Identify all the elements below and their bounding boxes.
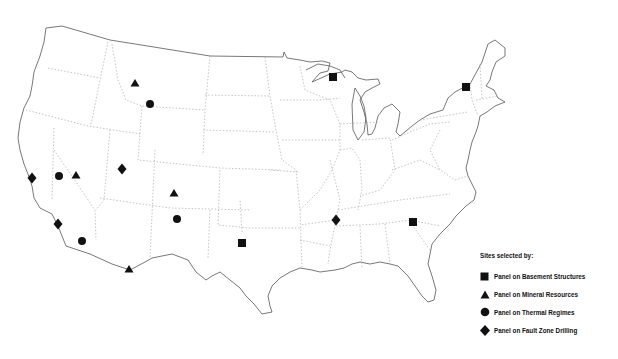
square-marker-basement [329,73,337,81]
legend-label: Panel on Fault Zone Drilling [494,327,577,334]
circle-marker-thermal [146,100,154,108]
square-marker-basement [462,83,470,91]
square-marker-basement [409,218,417,226]
triangle-marker-mineral [131,79,140,87]
diamond-icon [480,325,494,335]
triangle-marker-mineral [72,171,81,179]
square-icon [480,271,494,281]
square-marker-basement [238,239,246,247]
us-outline [18,26,505,314]
legend: Sites selected by: Panel on Basement Str… [480,252,618,339]
legend-item-fault: Panel on Fault Zone Drilling [480,321,618,339]
legend-item-basement: Panel on Basement Structures [480,267,618,285]
triangle-icon [480,289,494,299]
triangle-marker-mineral [170,189,179,197]
legend-label: Panel on Thermal Regimes [494,309,575,316]
lake-michigan-shore [352,88,366,140]
circle-marker-thermal [173,215,181,223]
state-boundaries [26,42,498,268]
legend-title: Sites selected by: [480,252,604,259]
diamond-marker-fault [332,215,341,226]
legend-item-thermal: Panel on Thermal Regimes [480,303,618,321]
site-markers [28,73,471,273]
circle-marker-thermal [78,237,86,245]
legend-label: Panel on Mineral Resources [494,291,578,298]
circle-marker-thermal [55,172,63,180]
diamond-marker-fault [28,173,37,184]
legend-item-mineral: Panel on Mineral Resources [480,285,618,303]
diamond-marker-fault [118,164,127,175]
circle-icon [480,307,494,317]
legend-label: Panel on Basement Structures [494,273,585,280]
